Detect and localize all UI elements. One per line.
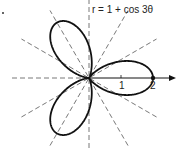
dashed-guide-lines — [12, 0, 157, 149]
tick-label-1: 1 — [119, 80, 125, 91]
polar-plot — [0, 0, 180, 149]
axis-arrow-icon — [169, 75, 176, 81]
equation-label: r = 1 + cos 3θ — [92, 4, 153, 15]
figure-marker — [2, 12, 4, 14]
tick-label-2: 2 — [150, 80, 156, 91]
